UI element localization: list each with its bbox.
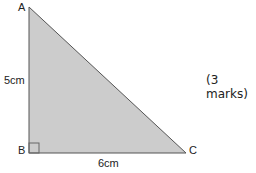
vertex-a-label: A xyxy=(18,2,25,13)
side-ab-label: 5cm xyxy=(4,75,25,86)
triangle-abc xyxy=(29,7,186,153)
vertex-c-label: C xyxy=(189,145,197,156)
vertex-b-label: B xyxy=(18,145,25,156)
side-bc-label: 6cm xyxy=(98,158,119,169)
marks-label: (3 marks) xyxy=(206,73,256,101)
